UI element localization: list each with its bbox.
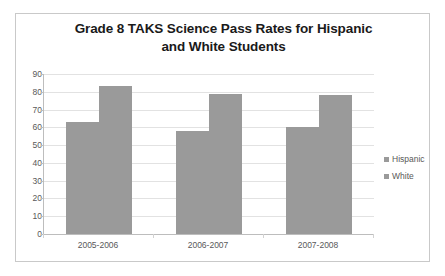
plot-wrapper: 9080706050403020100 2005-20062006-200720…	[16, 14, 431, 263]
legend-swatch-icon	[384, 157, 389, 162]
bars-layer	[44, 74, 374, 234]
x-axis-tick-label: 2007-2008	[298, 240, 339, 250]
x-axis-tick-label: 2005-2006	[78, 240, 119, 250]
y-axis-tick-label: 90	[20, 69, 42, 79]
plot-area	[43, 74, 374, 235]
y-axis-tick-label: 10	[20, 211, 42, 221]
legend-item-white[interactable]: White	[384, 171, 434, 181]
x-axis-tick-label: 2006-2007	[188, 240, 229, 250]
legend-item-hispanic[interactable]: Hispanic	[384, 154, 434, 164]
y-axis-labels: 9080706050403020100	[20, 74, 42, 234]
x-axis-separator	[263, 234, 264, 238]
x-axis-separator	[43, 234, 44, 238]
bar-hispanic-2006-2007	[176, 131, 209, 234]
y-axis-tick-label: 50	[20, 140, 42, 150]
legend-label: White	[392, 171, 414, 181]
bar-group	[176, 74, 242, 234]
legend-swatch-icon	[384, 174, 389, 179]
x-axis-separator	[153, 234, 154, 238]
bar-hispanic-2005-2006	[66, 122, 99, 234]
y-axis-tick-label: 30	[20, 176, 42, 186]
bar-group	[286, 74, 352, 234]
chart-legend: HispanicWhite	[384, 154, 434, 188]
bar-group	[66, 74, 132, 234]
bar-white-2007-2008	[319, 95, 352, 234]
x-axis-separator	[373, 234, 374, 238]
chart-container: Grade 8 TAKS Science Pass Rates for Hisp…	[15, 13, 430, 262]
x-axis-labels: 2005-20062006-20072007-2008	[43, 240, 373, 256]
bar-hispanic-2007-2008	[286, 127, 319, 234]
bar-white-2006-2007	[209, 94, 242, 234]
y-axis-tick-label: 60	[20, 122, 42, 132]
y-axis-tick-label: 70	[20, 105, 42, 115]
legend-label: Hispanic	[392, 154, 425, 164]
bar-white-2005-2006	[99, 86, 132, 234]
y-axis-tick-label: 40	[20, 158, 42, 168]
y-axis-tick-label: 80	[20, 87, 42, 97]
y-axis-tick-label: 20	[20, 193, 42, 203]
y-axis-tick-label: 0	[20, 229, 42, 239]
